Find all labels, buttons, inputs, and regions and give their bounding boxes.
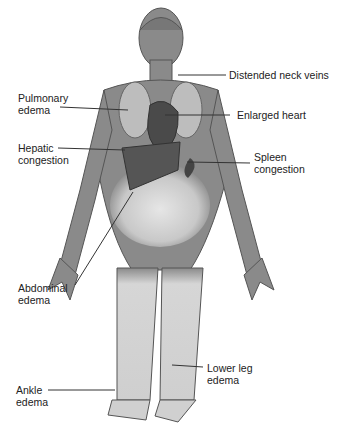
label-spleen-congestion-2: congestion [254, 163, 305, 175]
label-lower-leg-edema-1: Lower leg [207, 362, 253, 374]
label-enlarged-heart: Enlarged heart [237, 109, 306, 121]
label-ankle-edema-2: edema [16, 396, 48, 408]
label-spleen-congestion-1: Spleen [254, 151, 287, 163]
label-pulmonary-edema-2: edema [18, 104, 50, 116]
body-figure [0, 0, 337, 428]
label-distended-neck-veins: Distended neck veins [229, 69, 329, 81]
label-hepatic-congestion-1: Hepatic [18, 142, 54, 154]
right-leg [117, 268, 158, 400]
label-abdominal-edema-2: edema [18, 294, 50, 306]
label-hepatic-congestion-2: congestion [18, 154, 69, 166]
left-leg [160, 268, 203, 400]
label-abdominal-edema-1: Abdominal [18, 282, 68, 294]
label-lower-leg-edema-2: edema [207, 374, 239, 386]
label-ankle-edema-1: Ankle [16, 384, 42, 396]
label-pulmonary-edema-1: Pulmonary [18, 92, 68, 104]
